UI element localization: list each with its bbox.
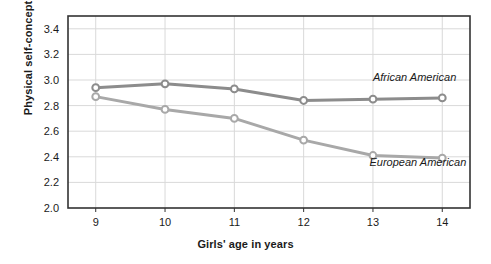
y-tick-label: 2.2	[44, 176, 59, 188]
series-line	[96, 84, 443, 101]
gridlines	[68, 16, 470, 208]
chart-figure: Physical self-concept 2.02.22.42.62.83.0…	[0, 0, 491, 264]
x-tick-label: 12	[298, 216, 310, 228]
data-point-marker	[439, 95, 446, 102]
y-tick-label: 2.6	[44, 125, 59, 137]
data-point-marker	[231, 115, 238, 122]
y-tick-label: 3.4	[44, 23, 59, 35]
y-tick-label: 2.8	[44, 100, 59, 112]
x-tick-label: 11	[229, 216, 240, 228]
x-tick-label: 10	[159, 216, 171, 228]
x-axis-title: Girls' age in years	[0, 238, 491, 250]
series-label-1: African American	[372, 71, 456, 83]
y-tick-label: 2.0	[44, 202, 59, 214]
data-point-marker	[300, 97, 307, 104]
line-chart-plot: 2.02.22.42.62.83.03.23.491011121314Afric…	[0, 0, 491, 264]
x-tick-label: 13	[367, 216, 379, 228]
y-tick-label: 3.2	[44, 48, 59, 60]
y-tick-label: 2.4	[44, 151, 59, 163]
x-axis-tick-labels: 91011121314	[93, 208, 449, 228]
y-tick-label: 3.0	[44, 74, 59, 86]
data-point-marker	[162, 80, 169, 87]
data-point-marker	[370, 96, 377, 103]
series-label-2: European American	[370, 156, 467, 168]
data-series-1: African American	[92, 71, 456, 104]
plot-frame	[68, 16, 470, 208]
y-axis-tick-labels: 2.02.22.42.62.83.03.23.4	[44, 23, 59, 214]
x-tick-label: 9	[93, 216, 99, 228]
data-point-marker	[300, 137, 307, 144]
x-tick-label: 14	[436, 216, 448, 228]
data-point-marker	[162, 106, 169, 113]
data-point-marker	[92, 84, 99, 91]
data-point-marker	[231, 86, 238, 93]
data-point-marker	[92, 93, 99, 100]
